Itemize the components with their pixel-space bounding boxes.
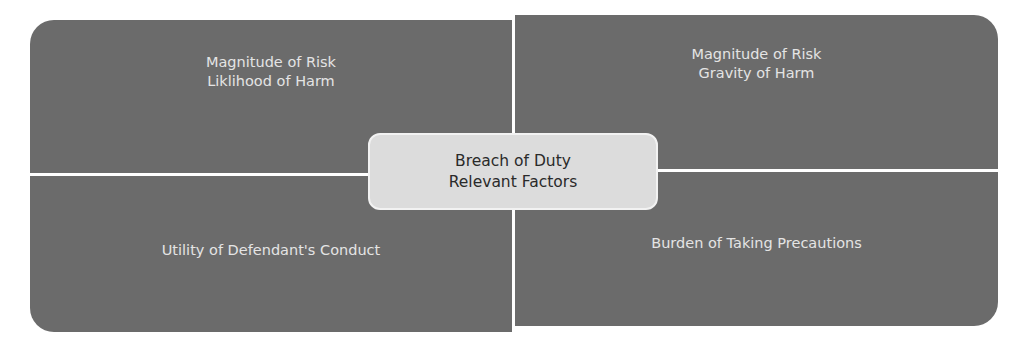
quadrant-title: Burden of Taking Precautions <box>651 234 862 253</box>
quadrant-text: Burden of Taking Precautions <box>651 234 862 253</box>
quadrant-title: Magnitude of Risk <box>691 45 821 64</box>
quadrant-text: Magnitude of Risk Gravity of Harm <box>691 45 821 83</box>
center-title: Breach of Duty <box>449 151 577 171</box>
quadrant-title: Magnitude of Risk <box>206 53 336 72</box>
center-subtitle: Relevant Factors <box>449 172 577 192</box>
center-node-breach-of-duty: Breach of Duty Relevant Factors <box>368 133 658 210</box>
quadrant-subtitle: Gravity of Harm <box>691 64 821 83</box>
center-text: Breach of Duty Relevant Factors <box>449 151 577 191</box>
quadrant-subtitle: Liklihood of Harm <box>206 72 336 91</box>
quadrant-text: Utility of Defendant's Conduct <box>162 241 381 260</box>
quadrant-title: Utility of Defendant's Conduct <box>162 241 381 260</box>
quadrant-text: Magnitude of Risk Liklihood of Harm <box>206 53 336 91</box>
